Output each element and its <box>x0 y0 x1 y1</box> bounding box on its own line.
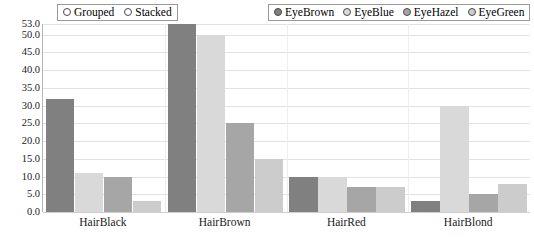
bar[interactable] <box>168 24 197 212</box>
y-axis-tick-label: 25.0 <box>0 118 40 128</box>
legend-entry-eyegreen[interactable]: EyeGreen <box>468 6 525 18</box>
bar[interactable] <box>226 123 255 212</box>
y-axis-tick-label: 45.0 <box>0 47 40 57</box>
bar[interactable] <box>104 177 133 212</box>
legend-label-eyeblue: EyeBlue <box>354 6 394 18</box>
y-axis-tick-label: 20.0 <box>0 136 40 146</box>
bar[interactable] <box>289 177 318 212</box>
legend-entry-eyeblue[interactable]: EyeBlue <box>343 6 394 18</box>
bar[interactable] <box>46 99 75 213</box>
swatch-eyehazel-icon[interactable] <box>403 8 411 16</box>
legend-entry-stacked[interactable]: Stacked <box>124 6 171 18</box>
category-separator <box>287 24 288 212</box>
legend-entry-grouped[interactable]: Grouped <box>63 6 114 18</box>
bar[interactable] <box>440 106 469 212</box>
bar-chart: Grouped Stacked EyeBrown EyeBlue EyeHaze… <box>0 0 534 249</box>
bar[interactable] <box>197 35 226 212</box>
y-axis-tick-label: 10.0 <box>0 172 40 182</box>
legend-label-eyehazel: EyeHazel <box>414 6 459 18</box>
y-axis-tick-label: 15.0 <box>0 154 40 164</box>
y-axis-tick-label: 0.0 <box>0 207 40 217</box>
x-axis-tick-label: HairBrown <box>164 216 286 229</box>
bar[interactable] <box>469 194 498 212</box>
gridline <box>43 212 530 213</box>
y-axis-tick-label: 35.0 <box>0 83 40 93</box>
swatch-eyeblue-icon[interactable] <box>343 8 351 16</box>
y-axis-tick-label: 5.0 <box>0 189 40 199</box>
bar[interactable] <box>498 184 527 212</box>
bar[interactable] <box>411 201 440 212</box>
y-axis: 0.05.010.015.020.025.030.035.040.045.050… <box>0 24 40 212</box>
bar[interactable] <box>255 159 284 212</box>
y-axis-tick-label: 40.0 <box>0 65 40 75</box>
category-separator <box>408 24 409 212</box>
bar[interactable] <box>133 201 162 212</box>
x-axis-tick-label: HairRed <box>286 216 408 229</box>
category-separator <box>165 24 166 212</box>
bar[interactable] <box>318 177 347 212</box>
legend-entry-eyehazel[interactable]: EyeHazel <box>403 6 459 18</box>
y-axis-tick-label: 53.0 <box>0 19 40 29</box>
legend-entry-eyebrown[interactable]: EyeBrown <box>274 6 334 18</box>
radio-grouped-icon[interactable] <box>63 8 71 16</box>
x-axis-tick-label: HairBlack <box>42 216 164 229</box>
legend-label-eyegreen: EyeGreen <box>479 6 525 18</box>
bar[interactable] <box>75 173 104 212</box>
display-mode-legend[interactable]: Grouped Stacked <box>57 4 178 21</box>
radio-stacked-icon[interactable] <box>124 8 132 16</box>
legend-label-eyebrown: EyeBrown <box>285 6 334 18</box>
legend-label-grouped: Grouped <box>74 6 114 18</box>
x-axis-tick-label: HairBlond <box>407 216 529 229</box>
legend-label-stacked: Stacked <box>135 6 171 18</box>
swatch-eyebrown-icon[interactable] <box>274 8 282 16</box>
x-axis: HairBlackHairBrownHairRedHairBlond <box>42 216 530 236</box>
y-axis-tick-label: 30.0 <box>0 101 40 111</box>
bar[interactable] <box>347 187 376 212</box>
bar[interactable] <box>376 187 405 212</box>
y-axis-tick-label: 50.0 <box>0 30 40 40</box>
swatch-eyegreen-icon[interactable] <box>468 8 476 16</box>
plot-area <box>42 24 530 212</box>
series-legend[interactable]: EyeBrown EyeBlue EyeHazel EyeGreen <box>268 4 530 21</box>
